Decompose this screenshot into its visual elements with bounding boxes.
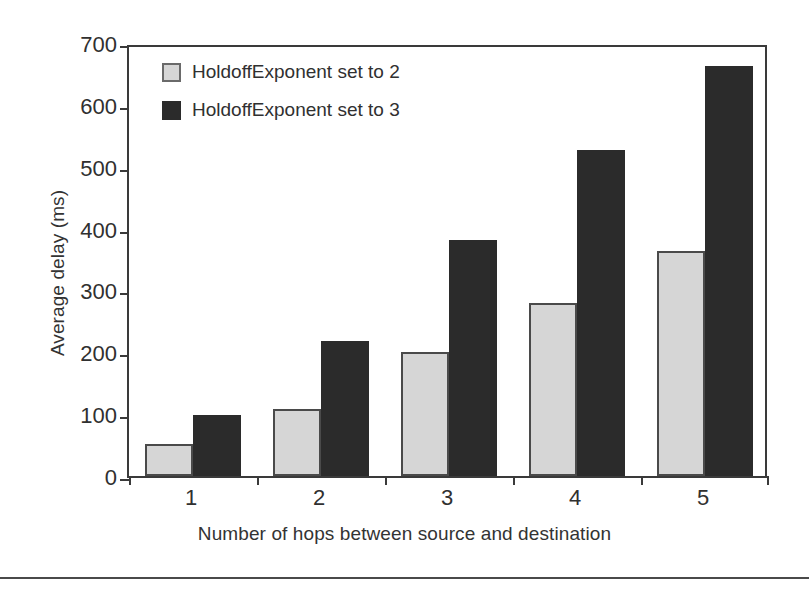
y-tick-label: 200 (55, 343, 117, 365)
x-tick-mark (129, 476, 131, 485)
x-axis-title: Number of hops between source and destin… (0, 523, 809, 545)
y-tick-label: 300 (55, 281, 117, 303)
y-tick-label: 700 (55, 34, 117, 56)
bar-holdoff2-hop-5 (657, 251, 705, 476)
y-tick-mark (120, 108, 129, 110)
bar-holdoff3-hop-5 (705, 66, 753, 476)
x-tick-label: 4 (555, 487, 595, 509)
x-tick-label: 5 (683, 487, 723, 509)
y-tick-label: 500 (55, 158, 117, 180)
bar-holdoff2-hop-4 (529, 303, 577, 476)
chart-legend: HoldoffExponent set to 2HoldoffExponent … (162, 57, 492, 133)
y-tick-label: 0 (55, 467, 117, 489)
legend-item: HoldoffExponent set to 2 (162, 57, 492, 87)
x-tick-label: 3 (427, 487, 467, 509)
bar-holdoff2-hop-1 (145, 444, 193, 476)
bottom-divider (0, 577, 809, 579)
y-tick-mark (120, 479, 129, 481)
x-tick-label: 1 (171, 487, 211, 509)
x-tick-mark (513, 476, 515, 485)
x-tick-mark (385, 476, 387, 485)
y-tick-mark (120, 170, 129, 172)
x-axis-tick-labels: 12345 (127, 487, 767, 521)
legend-swatch-black-square-icon (162, 101, 181, 120)
figure-chart: Average delay (ms) 010020030040050060070… (0, 0, 809, 591)
y-tick-mark (120, 46, 129, 48)
bar-holdoff2-hop-3 (401, 352, 449, 476)
y-tick-label: 100 (55, 405, 117, 427)
y-axis-tick-labels: 0100200300400500600700 (55, 0, 117, 591)
x-tick-mark (641, 476, 643, 485)
y-tick-label: 400 (55, 220, 117, 242)
y-tick-mark (120, 232, 129, 234)
bar-holdoff3-hop-3 (449, 240, 497, 476)
y-tick-label: 600 (55, 96, 117, 118)
bar-holdoff2-hop-2 (273, 409, 321, 476)
bar-holdoff3-hop-1 (193, 415, 241, 476)
y-tick-mark (120, 293, 129, 295)
legend-label: HoldoffExponent set to 2 (192, 61, 400, 83)
x-tick-mark (767, 476, 769, 485)
bar-holdoff3-hop-4 (577, 150, 625, 476)
x-tick-label: 2 (299, 487, 339, 509)
x-tick-mark (257, 476, 259, 485)
legend-item: HoldoffExponent set to 3 (162, 95, 492, 125)
bar-holdoff3-hop-2 (321, 341, 369, 476)
y-tick-mark (120, 355, 129, 357)
legend-swatch-light-square-icon (162, 63, 181, 82)
legend-label: HoldoffExponent set to 3 (192, 99, 400, 121)
y-tick-mark (120, 417, 129, 419)
